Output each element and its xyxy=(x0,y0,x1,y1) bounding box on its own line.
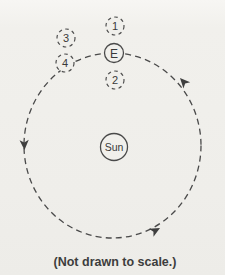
position-3-label: 3 xyxy=(63,32,69,44)
position-3-marker: 3 xyxy=(57,29,75,47)
earth-label: E xyxy=(110,47,118,61)
sun-label: Sun xyxy=(105,141,124,153)
sun-marker: Sun xyxy=(101,134,128,161)
position-4-label: 4 xyxy=(62,57,68,69)
position-1-label: 1 xyxy=(112,20,118,32)
orbit-diagram: 1 3 E 4 2 Sun (Not drawn to scale.) xyxy=(0,0,225,275)
position-2-marker: 2 xyxy=(106,71,124,89)
earth-marker: E xyxy=(105,44,124,63)
position-4-marker: 4 xyxy=(56,54,74,72)
scale-caption: (Not drawn to scale.) xyxy=(54,255,177,269)
orbit-direction-arrow-upper-right-icon xyxy=(177,75,191,89)
orbit-diagram-page: 1 3 E 4 2 Sun (Not drawn to scale.) xyxy=(0,0,225,275)
position-2-label: 2 xyxy=(112,74,118,86)
position-1-marker: 1 xyxy=(106,17,124,35)
